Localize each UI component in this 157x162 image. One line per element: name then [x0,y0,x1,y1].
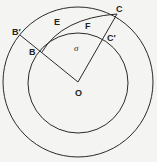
label-B-prime: B′ [12,27,21,37]
label-E: E [54,17,60,27]
label-F: F [85,21,91,31]
label-sigma: σ [74,43,79,53]
label-B: B [29,47,36,57]
label-O: O [75,88,82,98]
radius-OC [78,14,117,82]
geometry-diagram: B′ B E F C C′ σ O [0,0,157,162]
label-C: C [116,4,123,14]
label-C-prime: C′ [107,33,116,43]
